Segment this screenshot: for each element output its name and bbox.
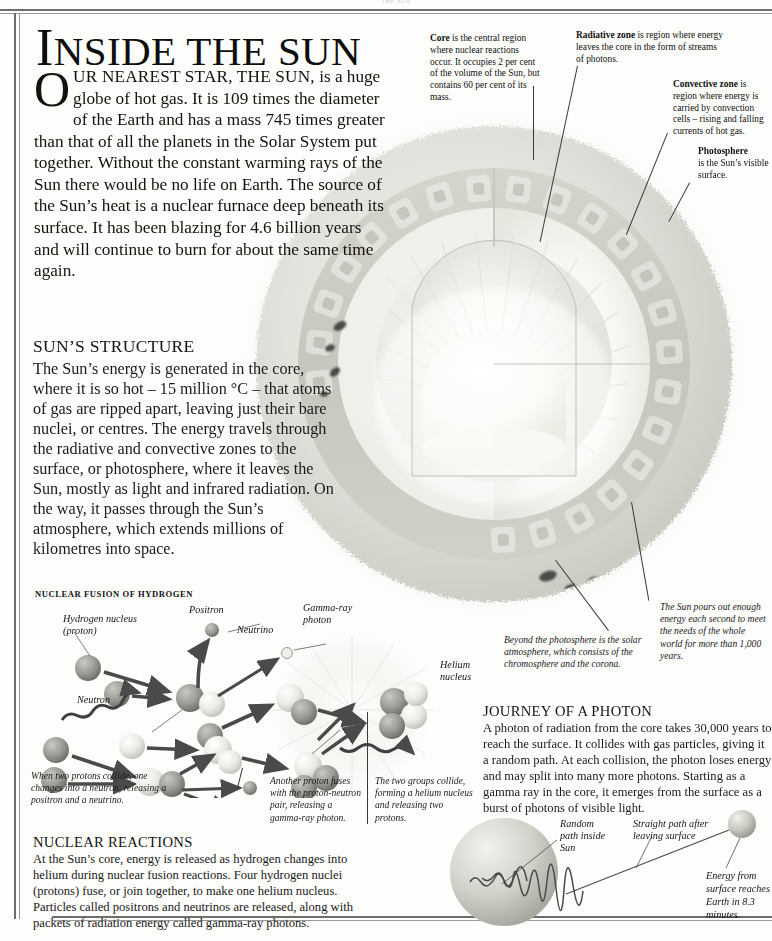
intro-dropcap: O <box>34 68 70 111</box>
intro-paragraph: OUR NEAREST STAR, THE SUN, is a huge glo… <box>34 66 390 282</box>
label-gamma-ray-photon: Gamma-ray photon <box>303 602 352 626</box>
label-earth-energy: Energy from surface reaches Earth in 8.3… <box>706 869 772 921</box>
leader-line-core <box>533 86 534 160</box>
sun-structure-heading: SUN’S STRUCTURE <box>33 336 345 358</box>
fusion-caption-step-1: When two protons collide, one changes in… <box>31 770 169 807</box>
callout-photosphere-text: is the Sun’s visible surface. <box>698 158 769 180</box>
label-random-path-line2: path inside <box>560 830 605 842</box>
frame-rule-top-outer <box>0 9 772 11</box>
nuclear-reactions-heading: NUCLEAR REACTIONS <box>33 833 373 851</box>
nuclear-reactions-body: At the Sun’s core, energy is released as… <box>33 852 373 932</box>
sun-structure-section: SUN’S STRUCTURE The Sun’s energy is gene… <box>33 336 345 559</box>
callout-core: Core is the central region where nuclear… <box>430 33 542 104</box>
page-canvas: THE SUN <box>0 0 772 941</box>
journey-body: A photon of radiation from the core take… <box>483 721 772 817</box>
label-random-path: Random path inside Sun <box>560 818 605 855</box>
label-gamma-ray-line2: photon <box>303 614 352 626</box>
frame-rule-left-outer <box>14 13 16 919</box>
sun-structure-body: The Sun’s energy is generated in the cor… <box>33 359 345 559</box>
label-straight-path: Straight path after leaving surface <box>633 818 708 842</box>
caption-energy-output: The Sun pours out enough energy each sec… <box>660 601 770 662</box>
label-helium-nucleus: Helium nucleus <box>440 659 471 683</box>
callout-convective-term: Convective zone <box>673 79 738 89</box>
label-random-path-line1: Random <box>560 818 605 830</box>
label-neutron: Neutron <box>77 694 110 706</box>
callout-radiative-zone: Radiative zone is region where energy le… <box>576 30 726 65</box>
intro-body: is a huge globe of hot gas. It is 109 ti… <box>34 67 385 280</box>
frame-rule-left-inner <box>19 13 20 919</box>
intro-smallcaps-lead: UR NEAREST STAR, THE SUN, <box>73 67 315 86</box>
label-straight-path-line1: Straight path after <box>633 818 708 830</box>
divider-fusion-2 <box>367 712 368 824</box>
callout-photosphere-term: Photosphere <box>698 146 748 156</box>
label-helium-nucleus-line2: nucleus <box>440 671 471 683</box>
callout-convective-zone: Convective zone is region where energy i… <box>673 79 772 138</box>
label-hydrogen-nucleus-line1: Hydrogen nucleus <box>63 613 137 625</box>
callout-photosphere: Photosphere is the Sun’s visible surface… <box>698 146 772 181</box>
journey-heading: JOURNEY OF A PHOTON <box>483 702 772 720</box>
journey-of-photon-section: JOURNEY OF A PHOTON A photon of radiatio… <box>483 702 772 817</box>
callout-core-text: is the central region where nuclear reac… <box>430 33 540 102</box>
callout-core-term: Core <box>430 33 450 43</box>
nuclear-reactions-section: NUCLEAR REACTIONS At the Sun’s core, ene… <box>33 833 373 932</box>
label-random-path-line3: Sun <box>560 842 605 854</box>
label-positron: Positron <box>189 604 224 616</box>
frame-rule-top-inner <box>0 13 772 14</box>
running-head: THE SUN <box>336 0 456 6</box>
callout-radiative-term: Radiative zone <box>576 30 635 40</box>
caption-solar-atmosphere: Beyond the photosphere is the solar atmo… <box>504 634 654 671</box>
label-hydrogen-nucleus-line2: (proton) <box>63 625 137 637</box>
label-neutrino: Neutrino <box>237 624 273 636</box>
label-helium-nucleus-line1: Helium <box>440 659 471 671</box>
fusion-caption-step-2: Another proton fuses with the proton-neu… <box>270 775 364 824</box>
label-gamma-ray-line1: Gamma-ray <box>303 602 352 614</box>
label-hydrogen-nucleus: Hydrogen nucleus (proton) <box>63 613 137 637</box>
label-straight-path-line2: leaving surface <box>633 830 708 842</box>
